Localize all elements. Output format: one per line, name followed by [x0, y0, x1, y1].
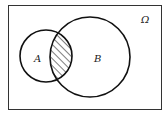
venn-diagram: A B Ω [0, 0, 166, 119]
universe-frame [9, 6, 162, 110]
set-b-label: B [93, 53, 101, 64]
set-a-label: A [33, 53, 41, 64]
universe-label: Ω [140, 14, 149, 25]
